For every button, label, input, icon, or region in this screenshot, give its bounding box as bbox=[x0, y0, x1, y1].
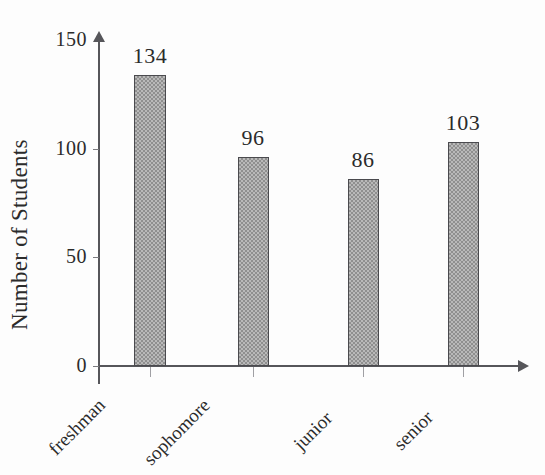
y-tick-label: 100 bbox=[41, 138, 87, 158]
y-tick-mark bbox=[93, 366, 99, 367]
bar-value-senior: 103 bbox=[423, 112, 503, 134]
y-tick-label: 0 bbox=[41, 355, 87, 375]
y-tick-mark bbox=[93, 149, 99, 150]
y-tick-label: 150 bbox=[41, 29, 87, 49]
bar-junior[interactable] bbox=[348, 179, 379, 366]
bar-senior[interactable] bbox=[448, 142, 479, 366]
bar-sophomore[interactable] bbox=[238, 157, 269, 366]
x-tick-mark-senior bbox=[463, 367, 464, 377]
x-category-label-sophomore: sophomore bbox=[140, 395, 213, 468]
x-axis-arrow-icon bbox=[518, 360, 529, 372]
x-tick-mark-junior bbox=[363, 367, 364, 377]
bar-freshman[interactable] bbox=[134, 75, 166, 366]
x-tick-mark-sophomore bbox=[253, 367, 254, 377]
y-axis-title: Number of Students bbox=[8, 139, 31, 330]
bar-value-sophomore: 96 bbox=[213, 127, 293, 149]
x-category-label-freshman: freshman bbox=[45, 395, 108, 458]
bar-value-junior: 86 bbox=[323, 149, 403, 171]
x-category-label-junior: junior bbox=[290, 408, 336, 454]
y-tick-mark bbox=[93, 257, 99, 258]
x-tick-mark-freshman bbox=[150, 367, 151, 377]
bar-chart-figure: Number of Students 0 50 100 150 134 96 8… bbox=[0, 0, 545, 475]
y-axis-arrow-icon bbox=[93, 31, 105, 42]
bar-value-freshman: 134 bbox=[110, 45, 190, 67]
x-category-label-senior: senior bbox=[390, 407, 436, 453]
y-tick-label: 50 bbox=[41, 246, 87, 266]
y-axis-line bbox=[98, 40, 100, 384]
